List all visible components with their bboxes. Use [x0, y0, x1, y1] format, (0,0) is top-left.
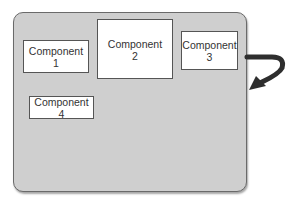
curved-arrow-icon: [0, 0, 292, 205]
